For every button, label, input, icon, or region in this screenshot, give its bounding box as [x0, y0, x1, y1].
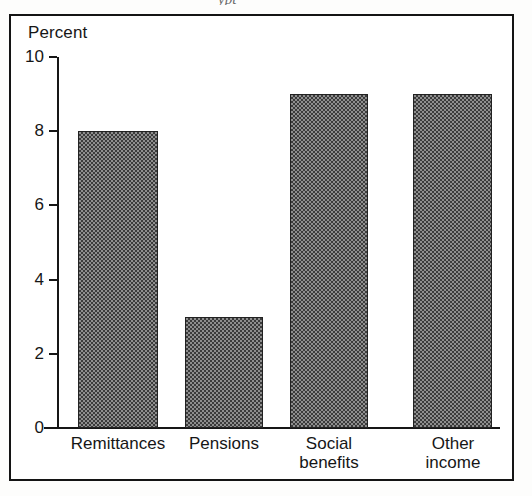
x-label-line: Social — [269, 434, 389, 453]
bar-remittances — [78, 131, 158, 428]
bar-pensions — [185, 317, 263, 428]
x-axis-label-social-benefits: Socialbenefits — [269, 434, 389, 472]
x-label-line: benefits — [269, 453, 389, 472]
plot-area: Percent 0246810 RemittancesPensionsSocia… — [0, 0, 532, 496]
bar-other-income — [413, 94, 492, 428]
bar-series — [0, 57, 532, 428]
x-label-line: income — [393, 453, 513, 472]
x-label-line: Pensions — [164, 434, 284, 453]
x-axis-label-pensions: Pensions — [164, 434, 284, 453]
chart-figure: ypt Percent 0246810 RemittancesPensionsS… — [0, 0, 532, 496]
x-axis-label-other-income: Otherincome — [393, 434, 513, 472]
x-label-line: Other — [393, 434, 513, 453]
y-axis-title: Percent — [28, 23, 87, 43]
bar-social-benefits — [290, 94, 368, 428]
